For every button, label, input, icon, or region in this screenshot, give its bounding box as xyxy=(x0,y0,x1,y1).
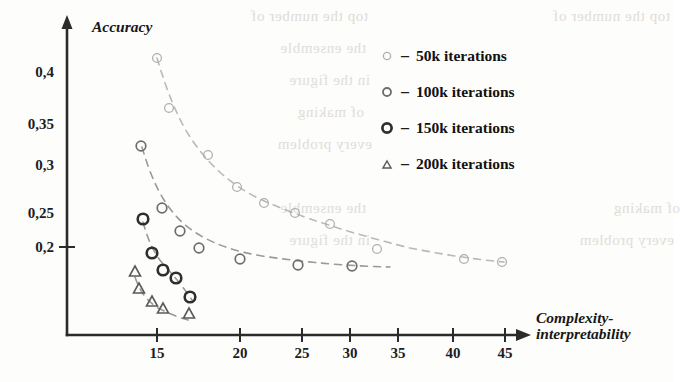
trend-curve-200k xyxy=(135,277,192,321)
legend-item-200k: – 200k iterations xyxy=(376,146,626,182)
legend-dash-2: – xyxy=(401,119,409,137)
legend-marker-open-triangle-icon xyxy=(376,157,398,171)
legend-item-50k: – 50k iterations xyxy=(376,38,626,74)
x-tick-label-3: 30 xyxy=(338,345,362,362)
series-markers-100k xyxy=(136,141,357,271)
legend-item-150k: – 150k iterations xyxy=(376,110,626,146)
y-axis-arrow-icon xyxy=(62,15,73,29)
legend-dash-0: – xyxy=(401,47,409,65)
x-axis-title-line2: interpretability xyxy=(536,325,631,342)
y-axis-title: Accuracy xyxy=(92,19,152,35)
legend-marker-open-circle-bold-icon xyxy=(376,120,398,136)
x-tick-label-1: 20 xyxy=(228,345,252,362)
legend-label-100k: 100k iterations xyxy=(416,83,515,101)
y-tick-label-2: 0,3 xyxy=(6,157,54,174)
legend-dash-1: – xyxy=(401,83,409,101)
x-axis xyxy=(67,328,531,342)
x-tick-label-4: 35 xyxy=(386,345,410,362)
x-tick-label-0: 15 xyxy=(145,345,169,362)
y-tick-label-1: 0,35 xyxy=(6,116,54,133)
x-tick-label-6: 45 xyxy=(493,345,517,362)
legend-item-100k: – 100k iterations xyxy=(376,74,626,110)
legend-label-150k: 150k iterations xyxy=(416,119,515,137)
legend: – 50k iterations – 100k iterations – 150… xyxy=(376,38,626,182)
legend-label-50k: 50k iterations xyxy=(416,47,507,65)
legend-marker-open-circle-medium-icon xyxy=(376,85,398,99)
y-tick-label-4: 0,2 xyxy=(6,239,54,256)
x-axis-title-line1: Complexity- xyxy=(536,309,614,326)
x-axis-title: Complexity- interpretability xyxy=(536,310,631,343)
y-tick-label-0: 0,4 xyxy=(6,64,54,81)
x-tick-label-2: 25 xyxy=(290,345,314,362)
legend-marker-open-circle-small-icon xyxy=(376,49,398,63)
x-axis-arrow-icon xyxy=(516,329,531,341)
y-axis xyxy=(59,15,75,335)
legend-label-200k: 200k iterations xyxy=(416,155,515,173)
x-tick-label-5: 40 xyxy=(441,345,465,362)
y-tick-label-3: 0,25 xyxy=(6,205,54,222)
legend-dash-3: – xyxy=(401,155,409,173)
